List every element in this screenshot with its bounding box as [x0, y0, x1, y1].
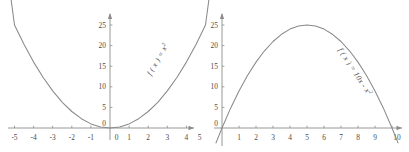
left-x-tick-label: 4 — [185, 133, 189, 142]
right-chart-y-tick-labels: 0 5 10 15 20 25 — [211, 21, 219, 128]
right-y-tick-label: 20 — [211, 41, 219, 50]
left-y-tick-label: 10 — [99, 82, 107, 91]
left-chart-curve-label-group: f ( x ) = x2 — [144, 41, 170, 77]
right-chart-curve — [216, 25, 398, 143]
left-x-tick-label: 3 — [165, 133, 169, 142]
right-chart-x-axis-arrow-icon — [397, 126, 403, 130]
left-x-tick-label: 1 — [127, 133, 131, 142]
left-chart: -5 -4 -3 -2 -1 0 1 2 3 4 5 0 5 10 15 20 … — [8, 0, 209, 142]
left-chart-curve-label: f ( x ) = x2 — [144, 41, 170, 77]
right-chart-x-tick-labels: 1 2 3 4 5 6 7 8 9 10 — [237, 133, 401, 142]
right-x-tick-label: 1 — [237, 133, 241, 142]
two-parabola-figure: -5 -4 -3 -2 -1 0 1 2 3 4 5 0 5 10 15 20 … — [0, 0, 409, 152]
right-y-tick-label: 0 — [214, 119, 218, 128]
left-y-tick-label: 5 — [102, 103, 106, 112]
left-chart-y-tick-labels: 0 5 10 15 20 25 — [99, 21, 107, 128]
left-y-tick-label: 15 — [99, 62, 107, 71]
left-x-tick-label: -2 — [69, 133, 75, 142]
left-x-tick-label: -3 — [50, 133, 56, 142]
right-x-tick-label: 4 — [288, 133, 292, 142]
left-x-tick-label: 0 — [115, 133, 119, 142]
right-x-tick-label: 3 — [271, 133, 275, 142]
right-x-tick-label: 5 — [305, 133, 309, 142]
right-y-tick-label: 25 — [211, 21, 219, 30]
left-x-tick-label: -4 — [31, 133, 37, 142]
left-x-tick-label: 5 — [198, 133, 202, 142]
right-chart-curve-label-group: f ( x ) = 10x - x2 — [336, 46, 374, 97]
right-x-tick-label: 6 — [322, 133, 326, 142]
plots-svg: -5 -4 -3 -2 -1 0 1 2 3 4 5 0 5 10 15 20 … — [0, 0, 409, 152]
left-y-tick-label: 20 — [99, 41, 107, 50]
right-x-tick-label: 8 — [356, 133, 360, 142]
right-x-tick-label: 9 — [373, 133, 377, 142]
right-chart-curve-label: f ( x ) = 10x - x2 — [336, 46, 374, 97]
left-chart-x-tick-labels: -5 -4 -3 -2 -1 0 1 2 3 4 5 — [11, 133, 201, 142]
right-y-tick-label: 5 — [214, 103, 218, 112]
right-y-tick-label: 10 — [211, 82, 219, 91]
left-x-tick-label: -5 — [11, 133, 17, 142]
left-chart-y-axis-arrow-icon — [108, 13, 112, 19]
left-y-tick-label: 0 — [102, 119, 106, 128]
right-y-tick-label: 15 — [211, 62, 219, 71]
left-chart-x-axis-arrow-icon — [189, 126, 195, 130]
right-x-tick-label: 2 — [254, 133, 258, 142]
left-x-tick-label: -1 — [88, 133, 94, 142]
right-x-tick-label: 7 — [339, 133, 343, 142]
right-chart: 1 2 3 4 5 6 7 8 9 10 0 5 10 15 20 25 — [211, 13, 402, 146]
right-chart-y-axis-arrow-icon — [220, 13, 224, 19]
left-x-tick-label: 2 — [146, 133, 150, 142]
left-y-tick-label: 25 — [99, 21, 107, 30]
